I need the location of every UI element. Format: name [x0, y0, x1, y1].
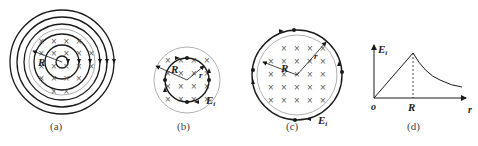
field-cross: × [294, 70, 301, 79]
caption-b: (b) [177, 120, 190, 133]
curve-outside [413, 53, 462, 87]
field-cross: × [63, 87, 70, 96]
field-crosses-a: ×××××××××××××××××××× [38, 37, 95, 96]
field-cross: × [63, 74, 70, 83]
field-cross: × [51, 37, 58, 46]
field-cross: × [38, 37, 45, 46]
radius-R-label-c: R [280, 62, 288, 74]
field-cross: × [268, 83, 275, 92]
y-axis-label: Ei [377, 43, 387, 57]
field-cross: × [281, 44, 288, 53]
field-cross: × [268, 70, 275, 79]
field-cross: × [178, 82, 185, 91]
curve-inside [374, 53, 413, 98]
field-cross: × [307, 57, 314, 66]
field-label-b: Ei [205, 94, 215, 108]
origin-label: o [371, 101, 376, 112]
field-cross: × [281, 83, 288, 92]
diagram-canvas: ×××××××××××××××××××× R (a) ×××××××××××××… [0, 0, 478, 146]
field-cross: × [178, 69, 185, 78]
field-cross: × [38, 74, 45, 83]
field-cross: × [294, 96, 301, 105]
field-cross: × [165, 95, 172, 104]
path-point [185, 100, 189, 104]
field-cross: × [320, 83, 327, 92]
arrow-icon [105, 59, 109, 64]
caption-a: (a) [50, 120, 63, 133]
field-cross: × [294, 57, 301, 66]
field-cross: × [320, 70, 327, 79]
field-cross: × [63, 62, 70, 71]
field-cross: × [191, 82, 198, 91]
field-cross: × [294, 44, 301, 53]
path-point [185, 56, 189, 60]
path-point [251, 68, 255, 72]
path-point [340, 70, 344, 74]
radius-label-a: R [37, 56, 45, 68]
field-cross: × [281, 96, 288, 105]
radius-R-label-b: R [170, 63, 178, 75]
field-cross: × [51, 74, 58, 83]
field-cross: × [76, 49, 83, 58]
path-point [207, 78, 211, 82]
field-cross: × [51, 49, 58, 58]
field-cross: × [204, 56, 211, 65]
figure-a: ×××××××××××××××××××× R (a) [10, 10, 116, 133]
field-cross: × [307, 83, 314, 92]
arrow-icon [98, 59, 102, 64]
field-cross: × [307, 96, 314, 105]
field-label-c: Ei [317, 114, 327, 128]
path-point [292, 28, 296, 32]
field-cross: × [307, 44, 314, 53]
field-cross: × [268, 96, 275, 105]
x-mark-label: R [407, 101, 415, 113]
caption-c: (c) [286, 120, 299, 133]
field-cross: × [63, 37, 70, 46]
path-point [163, 78, 167, 82]
x-axis-label: r [468, 104, 472, 115]
caption-d: (d) [407, 120, 420, 133]
field-cross: × [320, 57, 327, 66]
field-cross: × [178, 95, 185, 104]
arrow-icon [112, 59, 116, 64]
field-cross: × [88, 62, 95, 71]
field-cross: × [294, 83, 301, 92]
field-cross: × [307, 70, 314, 79]
field-cross: × [63, 49, 70, 58]
field-cross: × [88, 49, 95, 58]
field-cross: × [51, 87, 58, 96]
figure-d: Ei r o R (d) [371, 43, 472, 133]
field-cross: × [178, 56, 185, 65]
radius-r-label-c: r [314, 51, 318, 61]
figure-b: ×××××××××××××××× R r Ei (b) [154, 47, 220, 133]
field-cross: × [76, 74, 83, 83]
field-cross: × [76, 37, 83, 46]
figure-c: ×××××××××××××××××××××××× R r Ei (c) [251, 28, 344, 133]
field-cross: × [320, 96, 327, 105]
field-cross: × [51, 62, 58, 71]
radius-r-label-b: r [199, 70, 203, 80]
arrow-icon [306, 117, 311, 121]
